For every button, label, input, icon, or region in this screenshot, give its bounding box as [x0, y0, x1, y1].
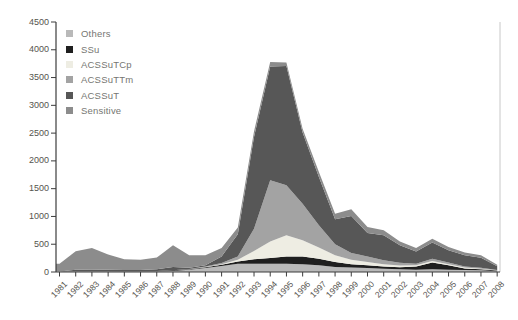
- legend-label: Sensitive: [81, 105, 121, 116]
- legend-swatch-icon: [66, 92, 73, 99]
- y-axis-tick-label: 2000: [17, 155, 49, 165]
- legend-item-acssuttm: ACSSuTTm: [66, 72, 133, 87]
- y-axis-tick-label: 2500: [17, 128, 49, 138]
- legend-item-acssutcp: ACSSuTCp: [66, 57, 133, 72]
- legend-swatch-icon: [66, 30, 73, 37]
- legend-label: ACSSuTTm: [81, 74, 133, 85]
- legend-label: ACSSuT: [81, 90, 119, 101]
- y-axis-tick-label: 1000: [17, 211, 49, 221]
- legend-item-ssu: SSu: [66, 41, 133, 56]
- y-axis-tick-label: 4500: [17, 17, 49, 27]
- legend-swatch-icon: [66, 107, 73, 114]
- y-axis-tick-label: 500: [17, 239, 49, 249]
- stacked-area-chart: OthersSSuACSSuTCpACSSuTTmACSSuTSensitive…: [0, 0, 518, 320]
- legend-swatch-icon: [66, 46, 73, 53]
- legend-label: Others: [81, 28, 111, 39]
- legend-item-acssut: ACSSuT: [66, 88, 133, 103]
- y-axis-tick-label: 3500: [17, 72, 49, 82]
- legend-label: ACSSuTCp: [81, 59, 132, 70]
- legend-label: SSu: [81, 44, 100, 55]
- y-axis-tick-label: 4000: [17, 44, 49, 54]
- y-axis-tick-label: 3000: [17, 100, 49, 110]
- legend-item-sensitive: Sensitive: [66, 103, 133, 118]
- legend-swatch-icon: [66, 61, 73, 68]
- legend: OthersSSuACSSuTCpACSSuTTmACSSuTSensitive: [66, 26, 133, 118]
- legend-swatch-icon: [66, 76, 73, 83]
- y-axis-tick-label: 0: [17, 267, 49, 277]
- legend-item-others: Others: [66, 26, 133, 41]
- y-axis-tick-label: 1500: [17, 183, 49, 193]
